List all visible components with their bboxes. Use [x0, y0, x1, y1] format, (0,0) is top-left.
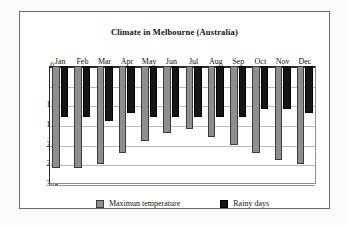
chart-title: Climate in Melbourne (Australia)	[20, 27, 329, 37]
legend-item-temperature: Maximun temperature	[96, 199, 180, 209]
bar-rainydays-nov	[283, 66, 291, 109]
gray-square-icon	[96, 200, 104, 208]
bar-group-jun	[160, 66, 182, 184]
chart-frame: Climate in Melbourne (Australia) JanFebM…	[19, 11, 330, 209]
bar-temperature-aug	[208, 66, 216, 137]
bar-rainydays-jul	[194, 66, 202, 117]
legend-label: Maximun temperature	[109, 199, 180, 209]
gridline-30	[50, 185, 315, 186]
bar-rainydays-aug	[216, 66, 224, 117]
bar-group-aug	[205, 66, 227, 184]
bar-temperature-apr	[119, 66, 127, 153]
plot-area	[49, 66, 316, 184]
bar-group-apr	[116, 66, 138, 184]
bar-temperature-nov	[275, 66, 283, 160]
bar-rainydays-dec	[305, 66, 313, 113]
bar-rainydays-apr	[127, 66, 135, 113]
bar-temperature-jun	[163, 66, 171, 133]
bar-temperature-may	[141, 66, 149, 141]
bar-group-jan	[49, 66, 71, 184]
black-square-icon	[220, 200, 228, 208]
bar-rainydays-oct	[261, 66, 269, 109]
bar-group-oct	[249, 66, 271, 184]
bar-temperature-dec	[297, 66, 305, 164]
bar-temperature-jan	[52, 66, 60, 168]
bar-temperature-mar	[97, 66, 105, 164]
legend-item-rainy-days: Rainy days	[220, 199, 269, 209]
bar-rainydays-mar	[105, 66, 113, 121]
bar-temperature-sep	[230, 66, 238, 145]
bar-group-mar	[94, 66, 116, 184]
bar-group-feb	[71, 66, 93, 184]
page-background: Climate in Melbourne (Australia) JanFebM…	[0, 0, 348, 225]
bar-rainydays-jan	[61, 66, 69, 117]
legend-label: Rainy days	[233, 199, 269, 209]
bar-group-nov	[272, 66, 294, 184]
bar-temperature-oct	[252, 66, 260, 153]
bar-group-may	[138, 66, 160, 184]
chart-legend: Maximun temperatureRainy days	[49, 196, 316, 212]
bar-rainydays-feb	[83, 66, 91, 117]
bar-temperature-jul	[186, 66, 194, 129]
bar-group-sep	[227, 66, 249, 184]
bar-group-jul	[183, 66, 205, 184]
bar-group-dec	[294, 66, 316, 184]
bar-temperature-feb	[74, 66, 82, 168]
bar-series-container	[49, 66, 316, 184]
bar-rainydays-sep	[239, 66, 247, 117]
bar-rainydays-jun	[172, 66, 180, 117]
bar-rainydays-may	[150, 66, 158, 117]
